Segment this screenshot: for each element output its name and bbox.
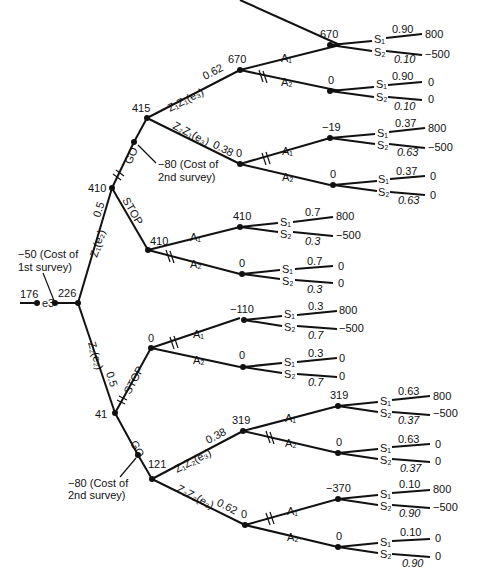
svg-text:S₂: S₂ [284,321,296,333]
svg-text:0: 0 [428,93,434,105]
svg-text:0: 0 [435,438,441,450]
svg-text:319: 319 [330,389,348,401]
svg-text:0: 0 [435,455,441,467]
svg-text:0: 0 [338,277,344,289]
svg-text:−19: −19 [322,121,341,133]
lower-branch: Z₂(e₂) 0.5 41 STOP 0 GO −80 (Cost of 2nd… [68,303,166,501]
svg-text:0: 0 [239,349,245,361]
svg-text:0.63: 0.63 [398,194,420,206]
svg-text:800: 800 [433,390,451,402]
svg-text:S₂: S₂ [380,548,392,560]
svg-text:S₂: S₂ [282,275,294,287]
svg-text:0: 0 [328,74,334,86]
svg-text:A₂: A₂ [285,437,297,449]
svg-text:−80 (Cost of: −80 (Cost of [68,477,129,489]
svg-text:0: 0 [239,257,245,269]
svg-text:S₂: S₂ [377,139,389,151]
svg-text:226: 226 [58,287,76,299]
svg-text:800: 800 [428,122,446,134]
svg-text:0.37: 0.37 [400,462,422,474]
svg-text:410: 410 [233,210,251,222]
svg-text:A₁: A₁ [287,505,298,517]
svg-text:−500: −500 [339,322,364,334]
svg-text:GO: GO [122,145,140,166]
svg-text:S₂: S₂ [284,368,296,380]
svg-text:A₁: A₁ [282,145,293,157]
svg-text:0: 0 [339,352,345,364]
svg-text:A₁: A₁ [285,412,296,424]
svg-text:A₂: A₂ [193,354,205,366]
svg-text:0.37: 0.37 [398,414,420,426]
svg-text:0: 0 [339,370,345,382]
svg-text:−500: −500 [433,501,458,513]
svg-text:0.90: 0.90 [392,70,413,82]
svg-text:S₁: S₁ [284,356,295,368]
svg-text:0.3: 0.3 [305,235,321,247]
svg-text:0.38: 0.38 [203,425,228,445]
svg-text:0.3: 0.3 [307,283,323,295]
svg-text:S₁: S₁ [380,488,391,500]
svg-text:A₁: A₁ [190,231,201,243]
svg-text:A₂: A₂ [281,76,293,88]
svg-text:0: 0 [236,147,242,159]
svg-text:S₁: S₁ [380,442,391,454]
svg-text:0.90: 0.90 [399,507,421,519]
svg-text:670: 670 [228,53,246,65]
svg-text:0: 0 [330,168,336,180]
svg-text:Z₂(e₂): Z₂(e₂) [86,340,106,371]
svg-text:S₂: S₂ [380,407,392,419]
svg-text:0.90: 0.90 [402,557,424,569]
svg-text:0.3: 0.3 [308,300,323,312]
svg-text:Z₂Z₂(e₃): Z₂Z₂(e₃) [175,482,216,511]
svg-text:0.37: 0.37 [395,117,416,129]
svg-text:410: 410 [88,182,106,194]
svg-text:S₁: S₁ [280,216,291,228]
svg-text:0.90: 0.90 [392,23,413,35]
lower-stop: A₁ A₂ −110 S₁ S₂ 0.3 0.7 800 −500 0 S₁ S… [151,300,364,388]
svg-text:S₁: S₁ [378,173,389,185]
svg-text:800: 800 [339,304,357,316]
svg-text:−500: −500 [428,141,453,153]
svg-text:0: 0 [430,170,436,182]
svg-text:0.62: 0.62 [215,496,240,516]
svg-text:176: 176 [20,288,38,300]
svg-text:−500: −500 [336,229,361,241]
root-node: 176 e3 226 −50 (Cost of 1st survey) [18,248,81,309]
svg-text:Z₁(e₂): Z₁(e₂) [87,228,107,258]
svg-text:−370: −370 [326,482,351,494]
upper-z1z1: Z₁Z₁(e₃) 0.62 670 A₁ A₂ 670 S₁ S₂ 0.90 0… [147,0,450,118]
svg-text:0.7: 0.7 [308,329,324,341]
svg-text:S₂: S₂ [376,91,388,103]
svg-text:S₁: S₁ [282,263,293,275]
svg-text:A₂: A₂ [190,258,202,270]
svg-text:2nd survey): 2nd survey) [158,171,215,183]
svg-text:0.7: 0.7 [308,376,324,388]
svg-text:0: 0 [428,76,434,88]
svg-text:800: 800 [433,483,451,495]
svg-text:0: 0 [435,550,441,562]
svg-text:S₂: S₂ [374,46,386,58]
svg-text:S₁: S₁ [284,308,295,320]
svg-text:0.10: 0.10 [394,100,416,112]
lower-z1z2: Z₁Z₂(e₃) 0.38 319 A₁ A₂ 319 S₁ S₂ 0.63 0… [152,385,458,479]
svg-text:0: 0 [241,508,247,520]
svg-text:0: 0 [148,332,154,344]
svg-text:0.37: 0.37 [396,165,417,177]
svg-text:S₂: S₂ [280,228,292,240]
svg-text:S₂: S₂ [378,186,390,198]
decision-tree: 176 e3 226 −50 (Cost of 1st survey) Z₁(e… [0,0,477,585]
svg-text:0: 0 [435,532,441,544]
svg-text:S₁: S₁ [380,536,391,548]
svg-text:−500: −500 [425,48,450,60]
svg-text:2nd survey): 2nd survey) [68,489,125,501]
svg-text:STOP: STOP [120,195,145,227]
svg-text:−110: −110 [230,303,254,315]
svg-text:0.3: 0.3 [308,347,323,359]
svg-text:800: 800 [425,28,443,40]
svg-text:S₁: S₁ [377,127,388,139]
upper-stop: A₁ A₂ 410 S₁ S₂ 0.7 0.3 800 −500 0 S₁ S₂… [148,206,361,295]
svg-text:415: 415 [132,102,150,114]
svg-text:0: 0 [336,436,342,448]
svg-text:0.63: 0.63 [397,146,419,158]
svg-text:STOP: STOP [121,364,146,396]
